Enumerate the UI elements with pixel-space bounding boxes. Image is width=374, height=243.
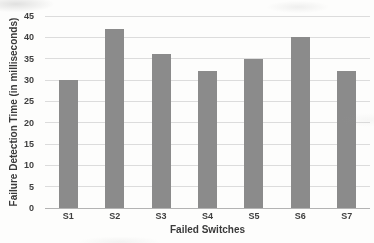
bar-s2 <box>105 29 124 208</box>
bar-s1 <box>59 80 78 208</box>
x-tick-label: S1 <box>45 211 91 222</box>
gridline <box>45 58 370 59</box>
x-tick-label: S2 <box>91 211 137 222</box>
x-tick-label: S4 <box>184 211 230 222</box>
y-tick-label: 10 <box>0 160 40 170</box>
y-tick-label: 35 <box>0 54 40 64</box>
x-axis-title: Failed Switches <box>45 224 370 235</box>
y-tick-label: 0 <box>0 203 40 213</box>
y-tick-label: 5 <box>0 182 40 192</box>
gridline <box>45 16 370 17</box>
bar-chart: Failure Detection Time (in milliseconds)… <box>0 0 374 243</box>
y-tick-label: 45 <box>0 11 40 21</box>
y-tick-label: 30 <box>0 75 40 85</box>
x-tick-label: S5 <box>231 211 277 222</box>
y-tick-label: 25 <box>0 96 40 106</box>
bar-s5 <box>244 59 263 208</box>
y-tick-label: 40 <box>0 32 40 42</box>
x-axis-line <box>45 208 370 209</box>
bar-s3 <box>152 54 171 208</box>
y-tick-label: 15 <box>0 139 40 149</box>
bar-s6 <box>291 37 310 208</box>
x-axis-tick-labels: S1S2S3S4S5S6S7 <box>45 211 370 222</box>
y-tick-label: 20 <box>0 118 40 128</box>
x-tick-label: S7 <box>324 211 370 222</box>
gridline <box>45 37 370 38</box>
bar-s7 <box>337 71 356 208</box>
y-axis-tick-labels: 051015202530354045 <box>0 16 40 208</box>
plot-area <box>45 16 370 208</box>
x-tick-label: S6 <box>277 211 323 222</box>
x-tick-label: S3 <box>138 211 184 222</box>
bar-s4 <box>198 71 217 208</box>
